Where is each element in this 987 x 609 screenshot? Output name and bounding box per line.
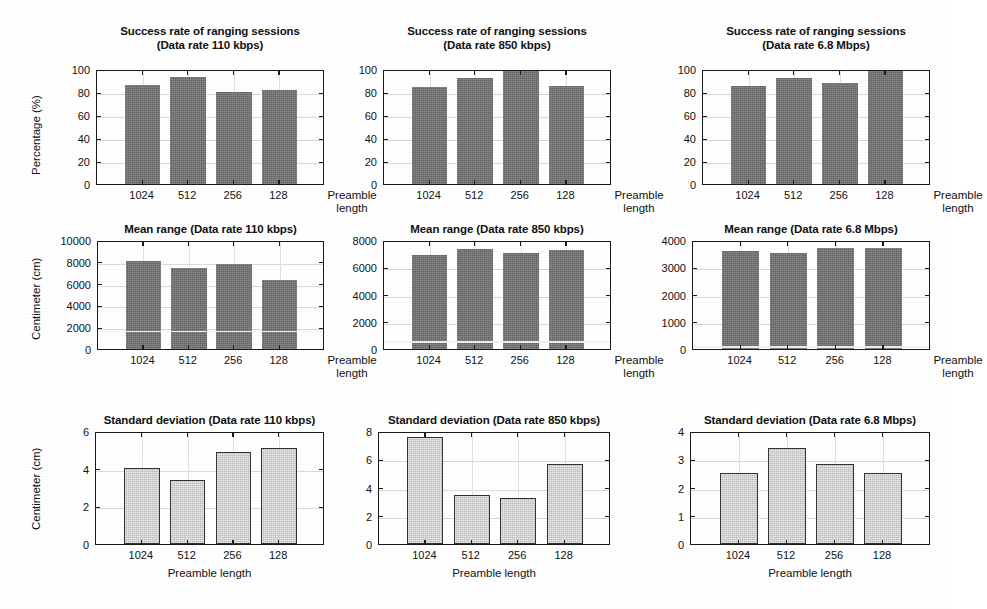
bar-stddev-68mbps-512 — [768, 448, 805, 544]
x-tick-mark — [738, 540, 739, 545]
plot-area-stddev-68mbps — [690, 432, 930, 545]
y-tick-label: 0 — [644, 539, 684, 551]
y-gridline — [691, 461, 929, 462]
y-tick-mark — [925, 488, 930, 489]
y-tick-label: 1 — [644, 511, 684, 523]
x-tick-mark — [786, 540, 787, 545]
x-tick-mark — [882, 432, 883, 437]
y-tick-mark — [690, 460, 695, 461]
x-tick-mark — [786, 432, 787, 437]
bar-stddev-68mbps-256 — [816, 464, 853, 544]
y-tick-mark — [690, 516, 695, 517]
y-tick-mark — [690, 488, 695, 489]
x-tick-mark — [834, 432, 835, 437]
y-tick-mark — [925, 460, 930, 461]
y-tick-mark — [925, 516, 930, 517]
chart-title-line1: Standard deviation (Data rate 6.8 Mbps) — [704, 414, 916, 426]
chart-title-stddev-68mbps: Standard deviation (Data rate 6.8 Mbps) — [690, 413, 930, 427]
bar-stddev-68mbps-1024 — [720, 473, 757, 544]
x-axis-label-stddev-68mbps: Preamble length — [690, 567, 930, 579]
y-tick-label: 3 — [644, 454, 684, 466]
x-tick-mark — [882, 540, 883, 545]
y-tick-label: 2 — [644, 483, 684, 495]
x-tick-mark — [738, 432, 739, 437]
bar-stddev-68mbps-128 — [864, 473, 901, 544]
x-tick-label-128: 128 — [852, 549, 912, 561]
x-tick-mark — [834, 540, 835, 545]
y-tick-label: 4 — [644, 426, 684, 438]
